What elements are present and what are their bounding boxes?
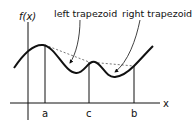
tick-label-c: c [86, 108, 92, 119]
right-trapezoid-label: right trapezoid [122, 8, 192, 19]
tick-label-b: b [131, 108, 137, 119]
function-curve [14, 45, 153, 77]
y-axis-label: f(x) [19, 11, 36, 22]
trapezoid-diagram: f(x) x a c b left trapezoid right trapez… [0, 0, 196, 128]
left-trapezoid-label: left trapezoid [54, 8, 117, 19]
x-axis-label: x [163, 98, 169, 109]
tick-label-a: a [42, 108, 48, 119]
